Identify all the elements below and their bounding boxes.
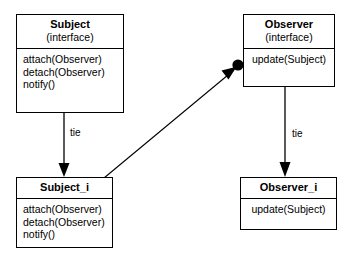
uml-diagram-canvas: Subject (interface) attach(Observer) det…	[0, 0, 348, 265]
connector-observer-to-observer-i	[280, 87, 291, 177]
edge-label-subject-tie: tie	[70, 127, 81, 138]
connector-subject-to-subject-i	[59, 113, 70, 177]
class-box-subject-i[interactable]: Subject_i attach(Observer) detach(Observ…	[16, 177, 113, 248]
class-box-observer-i[interactable]: Observer_i update(Subject)	[240, 177, 337, 230]
class-name-observer: Observer	[248, 18, 330, 31]
member-item: attach(Observer)	[23, 53, 117, 66]
class-box-subject-i-members: attach(Observer) detach(Observer) notify…	[17, 199, 112, 247]
class-box-subject-i-header: Subject_i	[17, 178, 112, 199]
member-item: detach(Observer)	[23, 66, 117, 79]
class-box-subject-header: Subject (interface)	[17, 15, 123, 49]
class-stereotype-observer: (interface)	[248, 31, 330, 44]
member-item: notify()	[23, 78, 117, 91]
class-name-subject: Subject	[21, 18, 119, 31]
class-box-subject-members: attach(Observer) detach(Observer) notify…	[17, 49, 123, 112]
member-item: attach(Observer)	[23, 203, 106, 216]
class-name-observer-i: Observer_i	[245, 181, 332, 194]
member-item: notify()	[23, 228, 106, 241]
class-box-observer-i-header: Observer_i	[241, 178, 336, 199]
class-box-observer-header: Observer (interface)	[244, 15, 334, 49]
class-stereotype-subject: (interface)	[21, 31, 119, 44]
member-item: update(Subject)	[250, 53, 328, 66]
connector-subject-i-to-observer	[104, 59, 244, 178]
member-item: update(Subject)	[247, 203, 330, 216]
member-item: detach(Observer)	[23, 216, 106, 229]
class-box-observer-i-members: update(Subject)	[241, 199, 336, 229]
class-name-subject-i: Subject_i	[21, 181, 108, 194]
class-box-subject[interactable]: Subject (interface) attach(Observer) det…	[16, 14, 124, 113]
class-box-observer-members: update(Subject)	[244, 49, 334, 86]
class-box-observer[interactable]: Observer (interface) update(Subject)	[243, 14, 335, 87]
edge-label-observer-tie: tie	[292, 128, 303, 139]
